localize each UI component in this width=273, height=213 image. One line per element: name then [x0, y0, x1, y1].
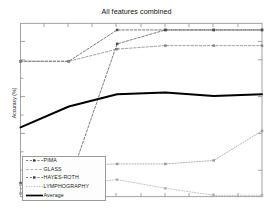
data-point — [212, 159, 215, 162]
legend-item-hayes-roth[interactable]: HAYES-ROTH — [23, 174, 105, 183]
legend-swatch-dotted-icon — [25, 183, 44, 190]
data-point — [261, 130, 264, 133]
legend-item-lymphography[interactable]: LYMPHOGRAPHY — [23, 182, 105, 191]
series-glass — [19, 44, 263, 62]
data-point — [212, 29, 215, 32]
data-point — [261, 29, 264, 32]
data-point — [212, 194, 215, 197]
legend-label-pima: PIMA — [44, 158, 57, 163]
legend-label-hayes-roth: HAYES-ROTH — [44, 175, 79, 180]
data-point — [164, 29, 167, 32]
legend-swatch-dashed-marker-icon — [25, 157, 44, 164]
data-point — [116, 163, 119, 166]
page-title: All features combined — [0, 7, 273, 16]
legend-label-lymphography: LYMPHOGRAPHY — [44, 184, 90, 189]
legend-swatch-dashed-marker-icon — [25, 174, 44, 181]
data-point — [116, 43, 119, 46]
legend-item-glass[interactable]: GLASS — [23, 165, 105, 174]
data-point — [116, 29, 119, 32]
legend-swatch-dashed-icon — [25, 166, 44, 173]
data-point — [261, 194, 264, 197]
data-point — [19, 60, 22, 63]
data-point — [164, 163, 167, 166]
y-axis-label: Accuracy (%) — [11, 73, 17, 133]
legend[interactable]: PIMA GLASS HAYES-ROTH — [22, 156, 106, 201]
legend-label-glass: GLASS — [44, 167, 62, 172]
data-point — [212, 44, 215, 47]
legend-item-pima[interactable]: PIMA — [23, 157, 105, 166]
data-point — [164, 44, 167, 47]
data-point — [116, 178, 119, 181]
legend-swatch-solid-icon — [25, 192, 44, 199]
data-point — [261, 44, 264, 47]
series-average — [21, 93, 263, 128]
data-point — [68, 60, 71, 63]
legend-label-average: Average — [44, 193, 64, 198]
data-point — [164, 187, 167, 190]
chart-figure: All features combined Accuracy (%) PIMA … — [0, 0, 273, 213]
series-pima — [19, 29, 263, 63]
data-point — [116, 48, 119, 51]
legend-item-average[interactable]: Average — [23, 191, 105, 200]
